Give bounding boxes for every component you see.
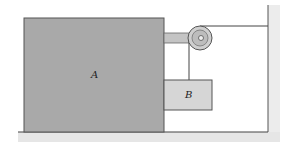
floor-hatch (18, 132, 280, 142)
wall-hatch (268, 5, 280, 133)
pulley-axle (199, 36, 204, 41)
pulley-diagram: A B (0, 0, 293, 148)
block-a-label: A (90, 69, 98, 80)
block-b-label: B (184, 89, 192, 100)
